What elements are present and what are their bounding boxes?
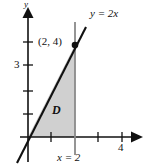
- shaded-region-d: [28, 45, 75, 137]
- figure-graph-region-d: y y = 2x (2, 4) 3 4 D x = 2: [0, 0, 148, 168]
- x-tick-label-4: 4: [118, 142, 124, 153]
- y-axis-label: y: [24, 0, 28, 9]
- region-label-d: D: [52, 104, 61, 116]
- graph-canvas: [0, 0, 148, 168]
- line-equation-label: y = 2x: [90, 8, 118, 19]
- x-axis-arrow-icon: [131, 132, 143, 143]
- point-marker-2-4: [72, 42, 79, 49]
- y-tick-label-3: 3: [14, 59, 20, 70]
- point-coordinate-label: (2, 4): [38, 36, 62, 47]
- vertical-line-equation-label: x = 2: [57, 152, 80, 163]
